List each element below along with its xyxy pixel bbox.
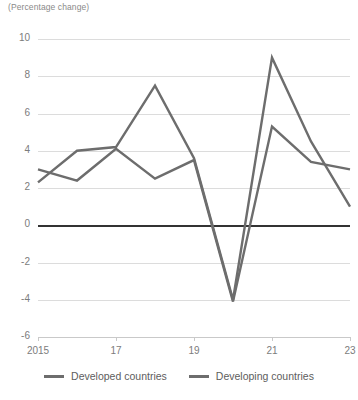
legend-label: Developing countries — [216, 370, 314, 382]
chart-legend: Developed countriesDeveloping countries — [0, 370, 358, 382]
y-tick-label: 6 — [4, 107, 30, 118]
y-tick-label: 0 — [4, 218, 30, 229]
legend-item-2[interactable]: Developing countries — [189, 370, 314, 382]
legend-item-1[interactable]: Developed countries — [44, 370, 167, 382]
x-tick-mark — [350, 337, 351, 341]
legend-swatch-icon — [189, 375, 209, 378]
series-line-1 — [38, 127, 350, 302]
y-tick-label: 4 — [4, 144, 30, 155]
x-tick-mark — [194, 337, 195, 341]
y-tick-label: 8 — [4, 69, 30, 80]
series-line-2 — [38, 58, 350, 300]
y-tick-label: -4 — [4, 293, 30, 304]
x-tick-label: 21 — [266, 345, 277, 356]
x-tick-label: 2015 — [27, 345, 49, 356]
x-tick-label: 17 — [110, 345, 121, 356]
chart-container: (Percentage change) 1086420-2-4-6 201517… — [0, 0, 358, 400]
y-tick-label: -2 — [4, 256, 30, 267]
x-tick-label: 19 — [188, 345, 199, 356]
x-tick-label: 23 — [344, 345, 355, 356]
y-tick-label: -6 — [4, 330, 30, 341]
legend-label: Developed countries — [71, 370, 167, 382]
y-tick-label: 10 — [4, 32, 30, 43]
y-tick-label: 2 — [4, 181, 30, 192]
legend-swatch-icon — [44, 375, 64, 378]
x-tick-mark — [116, 337, 117, 341]
x-tick-mark — [38, 337, 39, 341]
x-tick-mark — [272, 337, 273, 341]
